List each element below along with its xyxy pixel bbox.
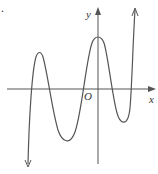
x-axis-label: x: [148, 93, 154, 105]
function-graph: . x y O: [0, 0, 158, 174]
origin-label: O: [84, 90, 92, 102]
y-axis-arrow-icon: [95, 7, 101, 15]
x-axis: [7, 86, 156, 92]
y-axis-label: y: [85, 8, 91, 20]
y-axis: [95, 7, 101, 164]
figure-marker: .: [1, 1, 4, 15]
x-axis-arrow-icon: [148, 86, 156, 92]
function-curve: [28, 10, 135, 164]
